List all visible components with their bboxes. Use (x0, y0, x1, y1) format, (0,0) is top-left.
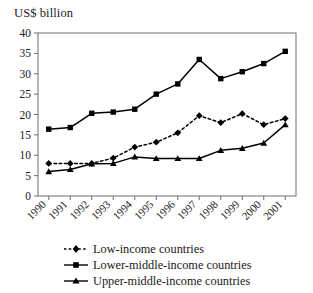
x-tick-label: 2001 (261, 198, 285, 222)
data-point-marker (154, 91, 159, 96)
plot-area: 0510152025303540 19901991199219931994199… (0, 0, 313, 240)
y-axis-ticks: 0510152025303540 (20, 27, 39, 202)
y-tick-label: 15 (20, 129, 32, 141)
data-point-marker (283, 49, 288, 54)
data-point-marker (89, 111, 94, 116)
data-point-marker (218, 76, 223, 81)
legend-item-low-income: Low-income countries (63, 241, 303, 257)
data-point-marker (132, 107, 137, 112)
x-tick-label: 1995 (132, 198, 156, 222)
plot-border (38, 33, 296, 196)
data-point-marker (240, 69, 245, 74)
data-point-marker (46, 126, 51, 131)
line-chart: US$ billion 0510152025303540 19901991199… (0, 0, 313, 293)
x-tick-label: 1997 (175, 198, 199, 222)
plot-frame (38, 33, 296, 196)
y-tick-label: 5 (25, 170, 31, 182)
x-tick-label: 2000 (239, 198, 263, 222)
x-tick-label: 1991 (46, 198, 70, 222)
y-tick-label: 0 (25, 190, 31, 202)
data-point-marker (68, 125, 73, 130)
x-tick-label: 1992 (67, 198, 91, 222)
y-tick-label: 40 (20, 27, 32, 39)
y-tick-label: 35 (20, 47, 32, 59)
y-tick-label: 20 (20, 109, 32, 121)
x-tick-label: 1999 (218, 198, 242, 222)
y-tick-label: 10 (20, 149, 32, 161)
x-tick-label: 1996 (153, 198, 177, 222)
x-tick-label: 1998 (196, 198, 220, 222)
legend-label-low-income: Low-income countries (93, 242, 204, 256)
data-point-marker (261, 61, 266, 66)
data-point-marker (111, 109, 116, 114)
x-axis-labels: 1990199119921993199419951996199719981999… (24, 198, 285, 222)
y-tick-label: 30 (20, 68, 32, 80)
legend: Low-income countries Lower-middle-income… (63, 241, 303, 289)
data-point-marker (197, 57, 202, 62)
legend-item-upper-middle-income: Upper-middle-income countries (63, 273, 303, 289)
legend-key-square-solid-icon (63, 258, 89, 272)
x-tick-label: 1993 (89, 198, 113, 222)
data-point-marker (175, 81, 180, 86)
y-tick-label: 25 (20, 88, 32, 100)
legend-key-triangle-solid-icon (63, 274, 89, 288)
legend-label-upper-middle-income: Upper-middle-income countries (93, 274, 250, 288)
legend-item-lower-middle-income: Lower-middle-income countries (63, 257, 303, 273)
legend-key-diamond-dotted-icon (63, 242, 89, 256)
x-tick-label: 1994 (110, 198, 134, 222)
legend-label-lower-middle-income: Lower-middle-income countries (93, 258, 252, 272)
